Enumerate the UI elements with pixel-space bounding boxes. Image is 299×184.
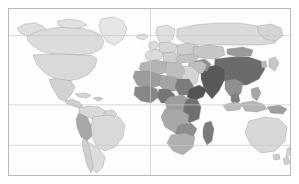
country-korea[interactable]: [261, 61, 267, 68]
country-tasmania[interactable]: [273, 154, 280, 160]
world-map[interactable]: [9, 9, 290, 175]
screenshot-root: [0, 0, 299, 184]
map-frame: [8, 8, 291, 176]
